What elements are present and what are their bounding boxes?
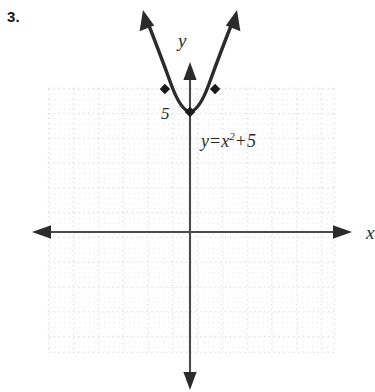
y-intercept-label: 5	[161, 104, 170, 124]
graph-grid	[49, 89, 336, 354]
equation-equals: =	[209, 131, 221, 151]
equation-exponent: 2	[229, 130, 235, 142]
equation-label: y=x2+5	[201, 131, 256, 152]
y-axis-label: y	[178, 30, 186, 52]
equation-constant: 5	[247, 131, 256, 151]
x-axis-label: x	[366, 222, 374, 244]
equation-base: x	[221, 131, 229, 151]
equation-plus: +	[235, 131, 247, 151]
coordinate-plane-graph	[0, 0, 375, 392]
equation-lhs: y	[201, 131, 209, 151]
